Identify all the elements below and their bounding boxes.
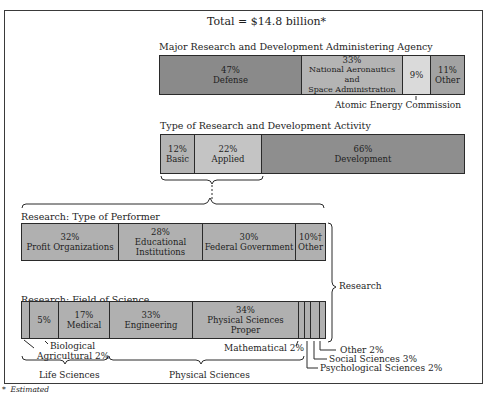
connector-lines	[0, 0, 486, 396]
